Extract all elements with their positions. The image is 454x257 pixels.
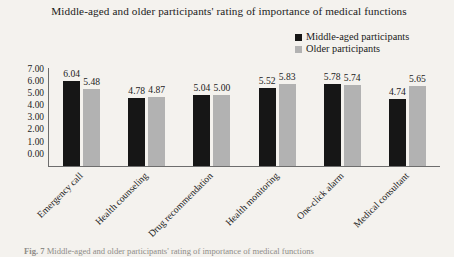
bar-value-label: 5.48 xyxy=(83,76,100,87)
bar: 5.48 xyxy=(83,89,100,167)
bar: 5.65 xyxy=(409,86,426,166)
figure-container: Middle-aged and older participants' rati… xyxy=(0,0,454,257)
bar-value-label: 4.87 xyxy=(148,84,165,95)
legend-item-older: Older participants xyxy=(295,43,409,55)
y-tick: 6.00 xyxy=(14,75,44,87)
plot-area: 6.045.484.784.875.045.005.525.835.785.74… xyxy=(48,68,440,167)
legend-swatch-icon xyxy=(295,46,302,53)
y-axis-tick-labels: 7.00 6.00 5.00 4.00 3.00 2.00 1.00 0.00 xyxy=(14,63,44,160)
x-label-cell: Emergency call xyxy=(48,168,113,238)
bar: 5.83 xyxy=(279,84,296,166)
bar: 6.04 xyxy=(63,81,80,166)
bar-value-label: 5.83 xyxy=(279,71,296,82)
bar: 5.00 xyxy=(213,95,230,166)
legend-swatch-icon xyxy=(295,34,302,41)
x-label-cell: Health monitoring xyxy=(244,168,309,238)
figure-caption: Fig. 7 Middle-aged and older participant… xyxy=(24,246,434,256)
x-axis-label: Emergency call xyxy=(34,170,84,220)
bar-group: 5.045.00 xyxy=(179,68,244,166)
chart-legend: Middle-aged participants Older participa… xyxy=(295,31,409,56)
bar: 5.04 xyxy=(193,95,210,166)
y-tick: 4.00 xyxy=(14,99,44,111)
bar-value-label: 4.78 xyxy=(128,85,145,96)
y-tick: 7.00 xyxy=(14,63,44,75)
x-axis-line xyxy=(48,166,440,167)
y-tick: 1.00 xyxy=(14,136,44,148)
caption-text: Middle-aged and older participants' rati… xyxy=(47,246,314,256)
bar-group: 4.745.65 xyxy=(375,68,440,166)
legend-label: Middle-aged participants xyxy=(306,31,409,43)
bar-value-label: 6.04 xyxy=(63,68,80,79)
bar-value-label: 5.78 xyxy=(324,71,341,82)
y-tick: 3.00 xyxy=(14,111,44,123)
bar-value-label: 5.00 xyxy=(214,82,231,93)
legend-item-middle-aged: Middle-aged participants xyxy=(295,31,409,43)
bar-value-label: 5.04 xyxy=(194,82,211,93)
x-label-cell: Health counseling xyxy=(113,168,178,238)
bar-group: 6.045.48 xyxy=(49,68,114,166)
bar: 4.78 xyxy=(128,98,145,166)
chart-title: Middle-aged and older participants' rati… xyxy=(34,5,424,19)
bar: 5.74 xyxy=(344,85,361,166)
y-tick: 2.00 xyxy=(14,123,44,135)
bar-group: 5.525.83 xyxy=(245,68,310,166)
y-tick: 0.00 xyxy=(14,148,44,160)
bar-group: 5.785.74 xyxy=(310,68,375,166)
bar: 5.52 xyxy=(259,88,276,166)
x-label-cell: Medical consultant xyxy=(375,168,440,238)
bar-group: 4.784.87 xyxy=(114,68,179,166)
caption-prefix: Fig. 7 xyxy=(24,246,45,256)
bar-value-label: 5.65 xyxy=(409,73,426,84)
bar-value-label: 4.74 xyxy=(389,86,406,97)
y-tick: 5.00 xyxy=(14,87,44,99)
bar-value-label: 5.52 xyxy=(259,75,276,86)
legend-label: Older participants xyxy=(306,43,380,55)
x-axis-category-labels: Emergency callHealth counselingDrug reco… xyxy=(48,168,440,238)
bar: 4.87 xyxy=(148,97,165,166)
x-label-cell: Drug recommendation xyxy=(179,168,244,238)
bar-groups: 6.045.484.784.875.045.005.525.835.785.74… xyxy=(49,68,440,166)
bar: 4.74 xyxy=(389,99,406,166)
bar-value-label: 5.74 xyxy=(344,72,361,83)
x-label-cell: One-click alarm xyxy=(309,168,374,238)
bar: 5.78 xyxy=(324,84,341,166)
